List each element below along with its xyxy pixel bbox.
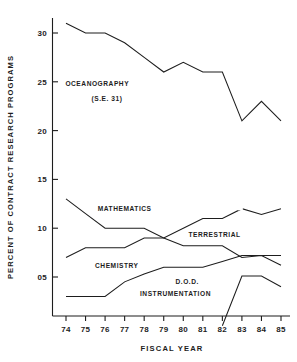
series-label: TERRESTRIAL xyxy=(188,231,240,238)
chart-axes xyxy=(53,18,291,316)
series-label: (S.E. 31) xyxy=(92,95,123,103)
series-line-terrestrial xyxy=(66,209,281,258)
x-tick-label: 85 xyxy=(276,325,286,334)
x-tick-label: 82 xyxy=(218,325,228,334)
y-tick-label: 30 xyxy=(38,29,48,38)
x-tick-label: 75 xyxy=(81,325,91,334)
chart-container: 051015202530 747576777879808182838485 OC… xyxy=(0,0,297,362)
x-tick-label: 76 xyxy=(100,325,110,334)
x-tick-label: 77 xyxy=(120,325,130,334)
series-label: INSTRUMENTATION xyxy=(140,290,211,297)
y-tick-label: 15 xyxy=(38,175,48,184)
series-lines xyxy=(66,23,281,326)
x-axis-title: FISCAL YEAR xyxy=(140,344,203,353)
series-line-d-o-d-instrumentation xyxy=(222,276,281,326)
y-tick-label: 20 xyxy=(38,127,48,136)
series-label: D.O.D. xyxy=(175,278,198,285)
x-tick-label: 74 xyxy=(61,325,71,334)
y-tick-label: 25 xyxy=(38,78,48,87)
x-tick-label: 80 xyxy=(179,325,189,334)
x-tick-label: 83 xyxy=(237,325,247,334)
y-tick-label: 10 xyxy=(38,224,48,233)
series-label: OCEANOGRAPHY xyxy=(65,80,129,87)
x-tick-label: 78 xyxy=(139,325,149,334)
y-axis-ticks: 051015202530 xyxy=(38,29,59,282)
y-axis-title: PERCENT OF CONTRACT RESEARCH PROGRAMS xyxy=(6,55,15,279)
y-tick-label: 05 xyxy=(38,273,48,282)
x-tick-label: 79 xyxy=(159,325,169,334)
series-label: CHEMISTRY xyxy=(95,262,139,269)
terrestrial-line-break xyxy=(238,208,243,209)
series-line-oceanography xyxy=(66,23,281,121)
x-tick-label: 81 xyxy=(198,325,208,334)
x-tick-label: 84 xyxy=(257,325,267,334)
x-axis-ticks: 747576777879808182838485 xyxy=(61,316,286,334)
line-chart: 051015202530 747576777879808182838485 OC… xyxy=(0,0,297,362)
series-label: MATHEMATICS xyxy=(98,205,152,212)
